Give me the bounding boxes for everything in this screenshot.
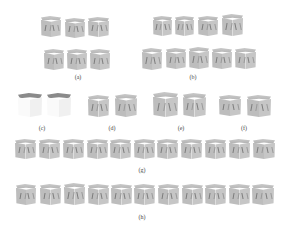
cube-top-face: [110, 139, 131, 143]
glyph-mark-icon: [68, 26, 75, 32]
cube-top-face: [198, 16, 218, 20]
cube-image-h-5: [111, 184, 132, 205]
glyph-mark-icon: [44, 25, 51, 31]
glyph-mark-icon: [256, 147, 263, 153]
cube-top-face: [181, 139, 202, 143]
panel-label-d: (d): [109, 125, 116, 131]
glyph-mark-icon: [201, 24, 208, 30]
cube-image-b-7: [189, 47, 209, 69]
cube-top-face: [175, 16, 194, 20]
glyph-mark-icon: [241, 147, 248, 153]
cube-image-b-8: [212, 48, 232, 69]
cube-top-face: [222, 14, 243, 19]
cube-image-b-5: [142, 48, 162, 70]
glyph-mark-icon: [123, 193, 130, 199]
cube-image-c-1: [18, 93, 42, 117]
cube-image-h-9: [205, 184, 226, 205]
glyph-mark-icon: [170, 193, 177, 199]
cube-image-g-4: [87, 139, 108, 159]
cube-top-face: [88, 95, 109, 100]
cube-top-face: [153, 92, 178, 98]
cube-image-d-1: [88, 95, 109, 117]
glyph-mark-icon: [193, 147, 200, 153]
cube-image-g-6: [134, 139, 155, 159]
cube-image-h-6: [134, 184, 155, 205]
cube-image-b-2: [175, 16, 194, 36]
cube-top-face: [18, 93, 42, 98]
cube-image-g-8: [181, 139, 202, 159]
glyph-mark-icon: [146, 193, 153, 199]
cube-top-face: [205, 139, 226, 143]
cube-top-face: [189, 47, 209, 52]
cube-top-face: [142, 48, 162, 53]
cube-top-face: [115, 94, 137, 99]
cube-top-face: [247, 95, 271, 100]
glyph-mark-icon: [168, 103, 176, 111]
cube-top-face: [44, 49, 64, 54]
cube-image-a-4: [44, 49, 64, 70]
glyph-mark-icon: [91, 193, 98, 199]
glyph-mark-icon: [70, 58, 77, 64]
glyph-mark-icon: [122, 147, 129, 153]
cube-top-face: [229, 139, 250, 143]
glyph-mark-icon: [76, 192, 83, 199]
glyph-mark-icon: [100, 193, 107, 199]
cube-image-b-1: [153, 16, 172, 36]
glyph-mark-icon: [208, 147, 215, 153]
cube-image-g-7: [157, 139, 178, 159]
glyph-mark-icon: [157, 103, 165, 111]
glyph-mark-icon: [232, 104, 239, 110]
cube-top-face: [252, 184, 274, 189]
cube-image-e-2: [183, 93, 206, 117]
cube-top-face: [235, 48, 256, 53]
glyph-mark-icon: [192, 56, 199, 63]
cube-top-face: [219, 95, 241, 100]
glyph-mark-icon: [232, 147, 239, 153]
cube-top-face: [253, 139, 275, 143]
cube-top-face: [39, 139, 60, 143]
glyph-mark-icon: [232, 193, 239, 199]
cube-image-g-5: [110, 139, 131, 159]
cube-top-face: [134, 139, 155, 143]
cube-top-face: [67, 49, 87, 54]
glyph-mark-icon: [247, 57, 254, 63]
glyph-mark-icon: [261, 104, 269, 111]
glyph-mark-icon: [234, 23, 241, 30]
cube-top-face: [16, 184, 36, 189]
panel-label-h: (h): [139, 214, 146, 220]
cube-image-h-7: [158, 184, 179, 205]
cube-right-face: [59, 97, 71, 117]
cube-top-face: [158, 184, 179, 189]
glyph-mark-icon: [238, 57, 245, 63]
cube-top-face: [229, 184, 250, 189]
cube-right-face: [30, 97, 42, 117]
cube-image-b-6: [166, 48, 186, 69]
glyph-mark-icon: [184, 147, 191, 153]
cube-image-h-2: [40, 184, 61, 205]
cube-top-face: [65, 18, 85, 22]
panel-label-f: (f): [241, 125, 247, 131]
glyph-mark-icon: [118, 104, 125, 111]
glyph-mark-icon: [99, 147, 106, 153]
panel-label-c: (c): [39, 125, 46, 131]
panel-label-e: (e): [178, 125, 185, 131]
cube-image-b-9: [235, 48, 256, 69]
cube-image-h-10: [229, 184, 250, 205]
glyph-mark-icon: [215, 57, 222, 63]
cube-top-face: [134, 184, 155, 189]
glyph-mark-icon: [265, 193, 272, 199]
panel-label-b: (b): [190, 74, 197, 80]
glyph-mark-icon: [217, 193, 224, 199]
glyph-mark-icon: [185, 193, 192, 199]
cube-image-h-8: [182, 184, 203, 205]
glyph-mark-icon: [160, 147, 167, 153]
glyph-mark-icon: [51, 147, 58, 153]
glyph-mark-icon: [113, 147, 120, 153]
cube-image-f-1: [219, 95, 241, 116]
glyph-mark-icon: [128, 104, 135, 111]
cube-top-face: [15, 139, 36, 143]
glyph-mark-icon: [52, 193, 59, 199]
cube-top-face: [157, 139, 178, 143]
glyph-mark-icon: [91, 25, 98, 31]
cube-image-g-3: [63, 139, 84, 159]
